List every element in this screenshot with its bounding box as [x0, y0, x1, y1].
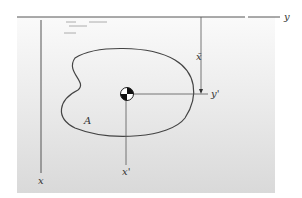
- centroid-icon: [121, 88, 134, 101]
- xbar-label: x̄: [196, 52, 202, 62]
- y-axis-label: y: [284, 12, 290, 22]
- diagram-canvas: [0, 0, 302, 198]
- arrowhead-icon: [199, 89, 203, 94]
- y-prime-label: y': [211, 89, 219, 99]
- area-label: A: [84, 116, 91, 126]
- surface-marks: [64, 22, 107, 33]
- x-prime-label: x': [122, 167, 130, 177]
- x-axis-label: x: [38, 176, 44, 186]
